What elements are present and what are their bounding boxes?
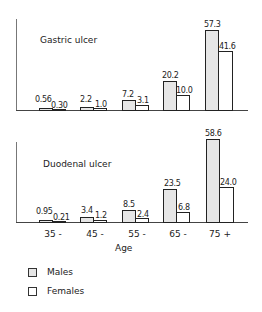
bar-duodenal-male-35: [39, 220, 53, 223]
bar-duodenal-male-55: [122, 210, 136, 223]
bar-duodenal-female-75: [219, 187, 234, 223]
label-gastric-female-35: 0.30: [51, 101, 68, 110]
label-duodenal-male-35: 0.95: [36, 207, 53, 216]
y-axis-gastric: [16, 19, 17, 110]
bar-gastric-female-75: [218, 51, 233, 111]
label-gastric-female-65: 10.0: [176, 86, 193, 95]
y-axis-duodenal: [16, 142, 17, 222]
legend-item-females: Females: [28, 286, 84, 296]
x-tick-75: 75 +: [200, 229, 240, 239]
label-duodenal-female-65: 6.8: [178, 203, 190, 212]
label-gastric-female-75: 41.6: [219, 42, 236, 51]
x-tick-65: 65 -: [158, 229, 198, 239]
label-duodenal-female-45: 1.2: [95, 211, 107, 220]
bar-gastric-male-75: [205, 30, 219, 111]
label-gastric-male-75: 57.3: [204, 20, 221, 29]
label-duodenal-male-55: 8.5: [123, 200, 135, 209]
label-duodenal-male-75: 58.6: [205, 129, 222, 138]
x-tick-55: 55 -: [117, 229, 157, 239]
label-gastric-male-55: 7.2: [122, 90, 134, 99]
bar-gastric-female-55: [135, 105, 149, 111]
label-duodenal-female-55: 2.4: [137, 210, 149, 219]
panel-title-gastric: Gastric ulcer: [40, 35, 97, 45]
x-tick-45: 45 -: [75, 229, 115, 239]
legend-swatch-females: [28, 287, 37, 296]
legend-label-males: Males: [47, 267, 73, 277]
bar-gastric-male-55: [122, 100, 136, 111]
panel-title-duodenal: Duodenal ulcer: [43, 159, 111, 169]
bar-gastric-female-65: [176, 95, 190, 111]
legend-label-females: Females: [47, 286, 84, 296]
label-gastric-male-45: 2.2: [80, 95, 92, 104]
x-tick-35: 35 -: [33, 229, 73, 239]
bar-gastric-male-65: [163, 81, 177, 111]
legend-swatch-males: [28, 268, 37, 277]
bar-duodenal-male-45: [80, 217, 94, 223]
label-duodenal-male-65: 23.5: [164, 179, 181, 188]
label-gastric-male-35: 0.56: [35, 95, 52, 104]
label-gastric-female-55: 3.1: [137, 96, 149, 105]
x-axis-label: Age: [115, 243, 132, 253]
bar-duodenal-female-45: [93, 220, 107, 223]
label-duodenal-female-35: 0.21: [53, 213, 70, 222]
label-duodenal-female-75: 24.0: [220, 178, 237, 187]
label-gastric-female-45: 1.0: [95, 100, 107, 109]
bar-duodenal-female-65: [176, 212, 190, 223]
label-duodenal-male-45: 3.4: [81, 206, 93, 215]
legend-item-males: Males: [28, 267, 73, 277]
bar-gastric-male-45: [80, 107, 94, 111]
bar-duodenal-male-75: [206, 139, 220, 223]
bar-duodenal-male-65: [163, 189, 177, 223]
label-gastric-male-65: 20.2: [162, 71, 179, 80]
